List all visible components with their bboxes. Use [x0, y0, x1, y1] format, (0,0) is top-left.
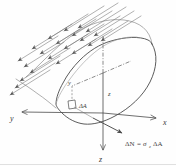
- stress-symbol: σ: [143, 140, 147, 148]
- cross-section-outline: [56, 37, 156, 124]
- y-coordinate-label: y: [67, 79, 71, 86]
- z-coordinate-label: z: [107, 90, 111, 97]
- force-equation-equals: =: [137, 140, 141, 148]
- z-axis-label: z: [98, 155, 103, 164]
- figure-canvas: y x z y z ΔA ΔN = σ z ΔA: [0, 0, 176, 166]
- stress-subscript: z: [148, 144, 151, 149]
- force-equation: ΔN = σ z ΔA: [125, 140, 163, 149]
- body-top-silhouette: [26, 20, 152, 77]
- x-axis-back-line: [103, 61, 131, 73]
- delta-N-force-arrow: [93, 118, 122, 133]
- x-axis-line: [103, 113, 156, 118]
- y-axis-label: y: [9, 114, 14, 123]
- y-axis-back-line: [72, 73, 103, 86]
- stress-diagram-figure: y x z y z ΔA ΔN = σ z ΔA: [0, 0, 176, 166]
- force-equation-area: ΔA: [153, 140, 163, 148]
- distributed-load-arrows: [10, 3, 141, 95]
- force-equation-lhs: ΔN: [125, 140, 135, 148]
- x-axis-label: x: [162, 118, 167, 127]
- area-element-label: ΔA: [78, 102, 87, 109]
- y-axis-line: [22, 112, 103, 113]
